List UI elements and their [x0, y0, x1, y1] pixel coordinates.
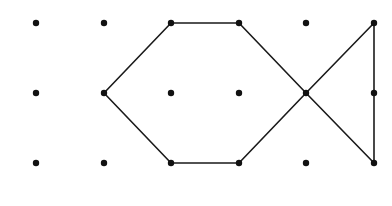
grid-dot	[303, 90, 309, 96]
grid-dot	[236, 20, 242, 26]
outline-segment	[239, 93, 306, 163]
grid-dot	[371, 90, 377, 96]
grid-dot	[236, 90, 242, 96]
grid-dot	[33, 160, 39, 166]
outline-segment	[104, 23, 171, 93]
grid-dot	[303, 20, 309, 26]
grid-dot	[371, 160, 377, 166]
grid-dot	[168, 20, 174, 26]
grid-dot	[168, 90, 174, 96]
grid-dot	[168, 160, 174, 166]
grid-dot	[303, 160, 309, 166]
dot-grid	[33, 20, 377, 166]
grid-dot	[33, 90, 39, 96]
grid-dot	[101, 160, 107, 166]
outline-segment	[306, 23, 374, 93]
grid-dot	[101, 20, 107, 26]
grid-dot	[33, 20, 39, 26]
outline-segment	[239, 23, 306, 93]
dot-grid-fish-diagram	[0, 0, 392, 206]
outline-segment	[306, 93, 374, 163]
grid-dot	[371, 20, 377, 26]
grid-dot	[236, 160, 242, 166]
grid-dot	[101, 90, 107, 96]
outline-segment	[104, 93, 171, 163]
